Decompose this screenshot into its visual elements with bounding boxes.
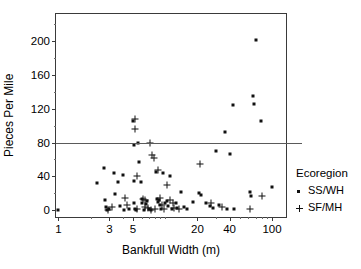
legend-label-ss-wh: SS/WH <box>308 184 344 196</box>
data-point-sf-mh <box>196 160 203 167</box>
data-point-ss-wh <box>232 207 235 210</box>
legend-label-sf-mh: SF/MH <box>308 201 342 213</box>
y-tick-label: 0 <box>44 204 50 216</box>
y-tick-minor <box>54 193 56 194</box>
data-point-ss-wh <box>259 120 262 123</box>
data-point-ss-wh <box>132 180 135 183</box>
y-tick <box>52 210 56 211</box>
x-tick <box>230 217 231 221</box>
data-point-ss-wh <box>253 102 256 105</box>
x-axis-label: Bankfull Width (m) <box>55 243 287 257</box>
x-tick-minor <box>248 217 249 219</box>
y-axis-label: Pieces Per Mile <box>2 60 16 170</box>
x-tick-label: 3 <box>106 223 112 235</box>
data-point-ss-wh <box>96 182 99 185</box>
data-point-sf-mh <box>258 192 265 199</box>
y-tick <box>52 109 56 110</box>
y-tick-minor <box>54 92 56 93</box>
x-tick <box>58 217 59 221</box>
y-tick-minor <box>54 24 56 25</box>
x-tick <box>272 217 273 221</box>
data-point-ss-wh <box>57 209 60 212</box>
x-tick-minor <box>262 217 263 219</box>
data-point-ss-wh <box>231 103 234 106</box>
y-tick <box>52 176 56 177</box>
y-tick-minor <box>54 159 56 160</box>
data-point-ss-wh <box>215 150 218 153</box>
x-tick-minor <box>149 217 150 219</box>
data-point-ss-wh <box>139 181 142 184</box>
data-point-ss-wh <box>186 207 189 210</box>
legend-marker-plus-icon <box>296 203 308 212</box>
x-tick-minor <box>160 217 161 219</box>
x-tick-minor <box>155 217 156 219</box>
x-tick-minor <box>256 217 257 219</box>
y-tick-label: 40 <box>37 170 50 182</box>
data-point-ss-wh <box>114 193 117 196</box>
data-point-sf-mh <box>151 206 158 213</box>
data-point-sf-mh <box>124 202 131 209</box>
reference-line-80 <box>56 143 302 144</box>
legend-item-ss-wh: SS/WH <box>296 184 348 196</box>
legend-marker-square-icon <box>296 186 308 195</box>
y-tick <box>52 41 56 42</box>
plot-area: 040801201602001352040100 <box>56 14 286 217</box>
x-tick-label: 100 <box>262 223 281 235</box>
x-tick-label: 5 <box>130 223 136 235</box>
data-point-ss-wh <box>249 194 252 197</box>
x-tick-label: 40 <box>223 223 236 235</box>
data-point-ss-wh <box>138 161 141 164</box>
x-tick-label: 1 <box>55 223 61 235</box>
data-point-ss-wh <box>168 174 171 177</box>
data-point-ss-wh <box>112 172 115 175</box>
data-point-sf-mh <box>219 203 226 210</box>
data-point-sf-mh <box>134 206 141 213</box>
x-tick-minor <box>240 217 241 219</box>
data-point-ss-wh <box>119 205 122 208</box>
legend-title: Ecoregion <box>296 167 348 179</box>
data-point-ss-wh <box>121 173 124 176</box>
data-point-sf-mh <box>133 173 140 180</box>
data-point-ss-wh <box>254 39 257 42</box>
data-point-sf-mh <box>154 166 161 173</box>
y-tick <box>52 75 56 76</box>
data-point-sf-mh <box>247 206 254 213</box>
y-tick-label: 160 <box>31 69 50 81</box>
data-point-ss-wh <box>191 200 194 203</box>
x-tick <box>133 217 134 221</box>
data-point-sf-mh <box>132 126 139 133</box>
x-tick-minor <box>91 217 92 219</box>
data-point-sf-mh <box>164 181 171 188</box>
y-tick-label: 120 <box>31 103 50 115</box>
data-point-ss-wh <box>133 201 136 204</box>
x-tick-minor <box>216 217 217 219</box>
data-point-sf-mh <box>161 206 168 213</box>
data-point-ss-wh <box>104 199 107 202</box>
legend: Ecoregion SS/WH SF/MH <box>296 167 348 218</box>
x-tick-minor <box>142 217 143 219</box>
data-point-ss-wh <box>179 190 182 193</box>
x-tick-minor <box>165 217 166 219</box>
data-point-sf-mh <box>150 154 157 161</box>
data-point-ss-wh <box>199 194 202 197</box>
data-point-sf-mh <box>109 203 116 210</box>
x-tick-minor <box>267 217 268 219</box>
data-point-ss-wh <box>103 166 106 169</box>
data-point-sf-mh <box>176 206 183 213</box>
data-point-ss-wh <box>162 172 165 175</box>
x-tick <box>197 217 198 221</box>
x-tick-minor <box>123 217 124 219</box>
legend-item-sf-mh: SF/MH <box>296 201 348 213</box>
data-point-ss-wh <box>132 144 135 147</box>
y-tick-label: 80 <box>37 137 50 149</box>
data-point-ss-wh <box>116 181 119 184</box>
data-point-ss-wh <box>248 190 251 193</box>
scatter-plot-figure: Pieces Per Mile 040801201602001352040100… <box>0 0 361 269</box>
y-tick-minor <box>54 58 56 59</box>
data-point-ss-wh <box>271 186 274 189</box>
plot-frame: 040801201602001352040100 <box>55 13 287 218</box>
data-point-sf-mh <box>208 200 215 207</box>
data-point-ss-wh <box>228 153 231 156</box>
data-point-ss-wh <box>223 130 226 133</box>
y-tick-label: 200 <box>31 35 50 47</box>
